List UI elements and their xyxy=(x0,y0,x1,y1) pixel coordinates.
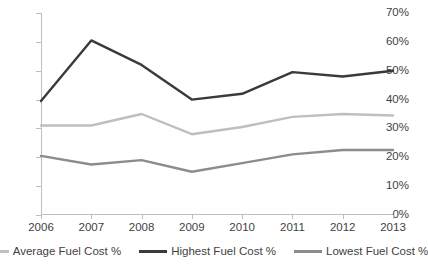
x-tick-label: 2008 xyxy=(120,221,164,233)
x-tick-mark xyxy=(142,215,143,219)
x-tick-mark xyxy=(242,215,243,219)
legend-swatch xyxy=(139,250,167,253)
x-tick-mark xyxy=(292,215,293,219)
x-tick-label: 2010 xyxy=(220,221,264,233)
x-tick-label: 2006 xyxy=(19,221,63,233)
x-tick-label: 2011 xyxy=(270,221,314,233)
chart-legend: Average Fuel Cost %Highest Fuel Cost %Lo… xyxy=(0,240,409,262)
legend-item[interactable]: Average Fuel Cost % xyxy=(0,245,121,257)
legend-label: Lowest Fuel Cost % xyxy=(326,245,428,257)
legend-item[interactable]: Highest Fuel Cost % xyxy=(139,245,276,257)
x-tick-mark xyxy=(41,215,42,219)
legend-label: Average Fuel Cost % xyxy=(13,245,121,257)
legend-label: Highest Fuel Cost % xyxy=(171,245,276,257)
series-line xyxy=(41,114,393,134)
legend-swatch xyxy=(294,250,322,253)
legend-swatch xyxy=(0,250,9,253)
x-tick-label: 2007 xyxy=(69,221,113,233)
x-tick-label: 2013 xyxy=(371,221,415,233)
x-tick-label: 2012 xyxy=(321,221,365,233)
x-tick-mark xyxy=(91,215,92,219)
x-tick-label: 2009 xyxy=(170,221,214,233)
plot-area xyxy=(41,13,393,215)
series-line xyxy=(41,40,393,101)
x-tick-mark xyxy=(393,215,394,219)
series-lines xyxy=(41,13,393,215)
legend-item[interactable]: Lowest Fuel Cost % xyxy=(294,245,428,257)
series-line xyxy=(41,150,393,172)
x-tick-mark xyxy=(192,215,193,219)
x-tick-mark xyxy=(343,215,344,219)
